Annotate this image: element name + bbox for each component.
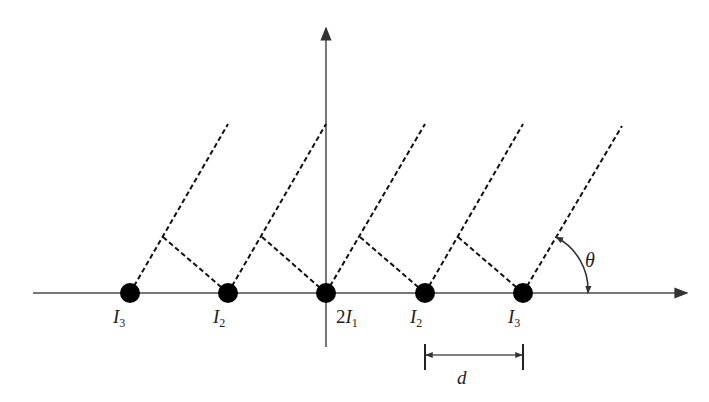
ray-line: [326, 124, 425, 293]
theta-label: θ: [585, 250, 595, 270]
path-difference-line: [458, 237, 523, 293]
array-element-dot: [513, 283, 533, 303]
element-current-label: I3: [113, 307, 125, 329]
spacing-d-dimension: [425, 344, 523, 370]
element-current-label: I3: [508, 307, 520, 329]
element-current-label: I2: [410, 307, 422, 329]
array-element-dot: [218, 283, 238, 303]
path-difference-line: [360, 237, 425, 293]
array-element-dot: [316, 283, 336, 303]
array-element-dot: [120, 283, 140, 303]
spacing-d-label: d: [457, 368, 467, 387]
ray-line: [130, 124, 228, 293]
ray-line: [425, 124, 523, 293]
ray-line: [228, 124, 326, 293]
path-difference-line: [262, 237, 326, 293]
ray-lines: [130, 124, 622, 293]
angle-arc: [556, 237, 588, 293]
diagram-canvas: [0, 0, 709, 402]
element-current-label: 2I1: [336, 307, 358, 329]
element-current-label: I2: [213, 307, 225, 329]
path-difference-line: [163, 237, 228, 293]
angle-theta-arc: [556, 237, 588, 293]
array-diagram: I3I22I1I2I3 θ d: [0, 0, 709, 402]
ray-line: [523, 126, 622, 293]
array-element-dot: [415, 283, 435, 303]
